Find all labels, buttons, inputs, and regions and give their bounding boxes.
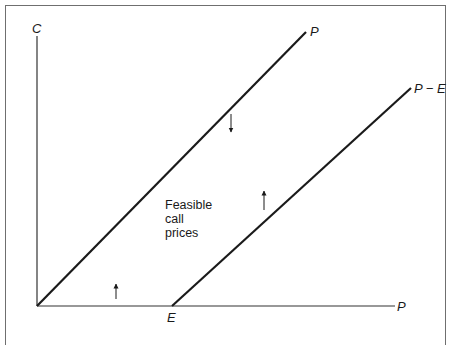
x-axis-label: P <box>397 299 406 314</box>
region-label-line-3: prices <box>165 226 198 240</box>
y-axis-label: C <box>32 21 42 36</box>
upper-bound-line <box>37 32 306 306</box>
upper-bound-label: P <box>310 24 319 39</box>
lower-bound-label: P − E <box>414 81 446 96</box>
exercise-price-label: E <box>167 310 176 325</box>
region-label-line-1: Feasible <box>165 198 212 212</box>
region-label-line-2: call <box>165 212 184 226</box>
lower-bound-line <box>172 88 411 306</box>
